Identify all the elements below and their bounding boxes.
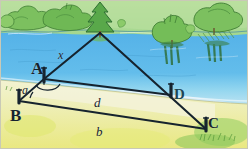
survey-illustration: A B C D x a d b (0, 0, 248, 149)
label-point-a: A (31, 60, 43, 77)
label-point-c: C (208, 116, 219, 131)
label-point-d: D (174, 87, 185, 102)
label-segment-d: d (94, 96, 101, 109)
label-point-b: B (10, 107, 21, 124)
far-bushes-left-edge (0, 15, 14, 28)
label-segment-b: b (96, 125, 103, 138)
label-angle-alpha: a (22, 84, 28, 96)
label-segment-x: x (58, 49, 63, 61)
